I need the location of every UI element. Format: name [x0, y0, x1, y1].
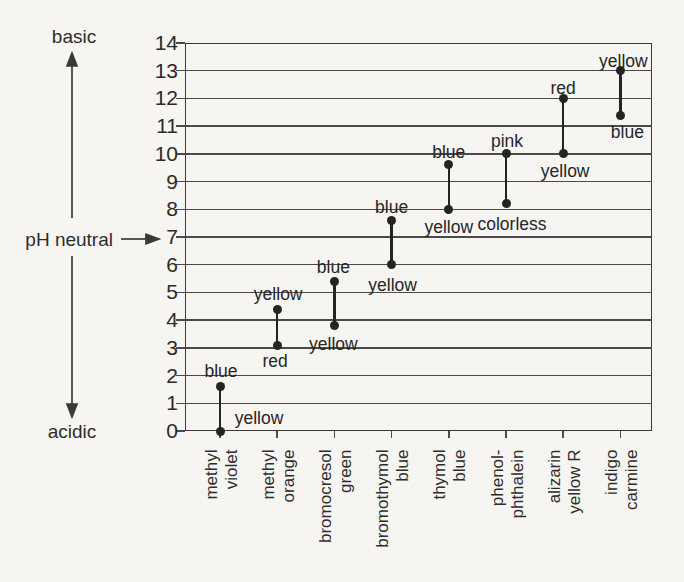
- y-axis-tick-label: 5: [134, 281, 178, 303]
- indicator-range-line: [448, 165, 451, 209]
- gridline-ph-2: [185, 375, 652, 377]
- indicator-low-color-label: yellow: [235, 408, 284, 429]
- gridline-ph-8: [185, 209, 652, 211]
- gridline-ph-11: [185, 125, 652, 127]
- indicator-range-line: [619, 71, 622, 115]
- ph-neutral-label: pH neutral: [0, 229, 113, 251]
- gridline-ph-10: [185, 153, 652, 155]
- indicator-high-color-label: red: [551, 78, 576, 99]
- ph-indicator-chart: basic pH neutral acidic 1413121110987654…: [0, 0, 684, 582]
- indicator-high-color-label: pink: [491, 130, 523, 151]
- category-label-indigo-carmine: indigo carmine: [601, 449, 641, 564]
- indicator-range-line: [390, 220, 393, 264]
- indicator-range-line: [333, 281, 336, 325]
- indicator-low-dot: [502, 199, 511, 208]
- indicator-low-color-label: colorless: [477, 213, 546, 234]
- indicator-low-dot: [330, 321, 339, 330]
- y-axis-tick-label: 6: [134, 254, 178, 276]
- y-axis-tick-label: 14: [134, 32, 178, 54]
- down-arrowhead-icon: [67, 404, 77, 417]
- up-arrowhead-icon: [67, 53, 77, 66]
- y-axis-tick-label: 2: [134, 365, 178, 387]
- y-axis-tick-label: 4: [134, 309, 178, 331]
- category-label-bromothymol-blue: bromothymol blue: [373, 449, 413, 564]
- indicator-range-line: [562, 98, 565, 153]
- y-axis-tick-label: 10: [134, 143, 178, 165]
- y-axis-tick-label: 13: [134, 60, 178, 82]
- gridline-ph-12: [185, 98, 652, 100]
- x-axis-tick: [276, 431, 278, 438]
- y-axis-tick-label: 11: [134, 115, 178, 137]
- gridline-ph-3: [185, 347, 652, 349]
- indicator-range-line: [219, 387, 222, 431]
- indicator-low-dot: [273, 341, 282, 350]
- y-axis-tick-label: 3: [134, 337, 178, 359]
- y-axis-tick-label: 0: [134, 420, 178, 442]
- x-axis-tick: [620, 431, 622, 438]
- indicator-high-dot: [216, 382, 225, 391]
- x-axis-tick: [334, 431, 336, 438]
- y-axis-tick-label: 8: [134, 198, 178, 220]
- indicator-low-color-label: red: [263, 351, 288, 372]
- indicator-low-color-label: blue: [611, 122, 644, 143]
- indicator-high-color-label: blue: [432, 141, 465, 162]
- category-label-methyl-violet: methyl violet: [201, 449, 241, 564]
- indicator-high-color-label: blue: [204, 360, 237, 381]
- category-label-phenolphthalein: phenol- phthalein: [487, 449, 527, 564]
- gridline-ph-4: [185, 319, 652, 321]
- category-label-bromocresol-green: bromocresol green: [315, 449, 355, 564]
- indicator-low-dot: [616, 111, 625, 120]
- y-axis-tick-label: 1: [134, 392, 178, 414]
- indicator-high-dot: [330, 277, 339, 286]
- indicator-low-dot: [216, 427, 225, 436]
- indicator-high-color-label: blue: [375, 197, 408, 218]
- x-axis-tick: [562, 431, 564, 438]
- acidic-label: acidic: [44, 421, 100, 443]
- x-axis-tick: [448, 431, 450, 438]
- indicator-range-line: [276, 309, 279, 345]
- y-axis-tick-label: 12: [134, 87, 178, 109]
- indicator-low-color-label: yellow: [309, 333, 358, 354]
- x-axis-tick: [391, 431, 393, 438]
- indicator-high-color-label: blue: [317, 257, 350, 278]
- basic-label: basic: [46, 26, 102, 48]
- indicator-high-dot: [273, 305, 282, 314]
- y-axis-tick-label: 9: [134, 171, 178, 193]
- category-label-methyl-orange: methyl orange: [258, 449, 298, 564]
- indicator-high-color-label: yellow: [599, 50, 648, 71]
- category-label-alizarin-yellow-R: alizarin yellow R: [544, 449, 584, 564]
- gridline-ph-6: [185, 264, 652, 266]
- indicator-high-color-label: yellow: [254, 284, 303, 305]
- indicator-low-dot: [559, 149, 568, 158]
- gridline-ph-1: [185, 403, 652, 405]
- indicator-low-color-label: yellow: [541, 160, 590, 181]
- gridline-ph-7: [185, 236, 652, 238]
- x-axis-tick: [505, 431, 507, 438]
- indicator-range-line: [505, 154, 508, 204]
- indicator-low-color-label: yellow: [424, 217, 473, 238]
- y-axis-tick-label: 7: [134, 226, 178, 248]
- category-label-thymol-blue: thymol blue: [430, 449, 470, 564]
- indicator-low-color-label: yellow: [368, 274, 417, 295]
- gridline-ph-13: [185, 70, 652, 72]
